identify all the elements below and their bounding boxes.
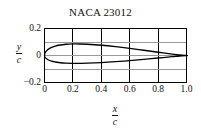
x-axis-fraction: x c xyxy=(112,104,118,127)
y-axis-denominator: c xyxy=(16,55,22,66)
y-tick-label: −0.2 xyxy=(15,78,41,88)
airfoil-chart-figure: NACA 23012 00.20.40.60.81.0 −0.200.2 y c… xyxy=(0,0,201,129)
gridlines xyxy=(45,29,187,83)
x-axis-numerator: x xyxy=(112,104,118,115)
y-axis-fraction: y c xyxy=(16,42,22,65)
x-tick-label: 0.6 xyxy=(117,85,143,95)
x-tick-label: 0.8 xyxy=(145,85,171,95)
x-axis-denominator: c xyxy=(112,117,118,128)
x-tick-label: 1.0 xyxy=(174,85,200,95)
y-axis-numerator: y xyxy=(16,42,22,53)
y-axis-title: y c xyxy=(8,42,30,65)
x-tick-label: 0.4 xyxy=(88,85,114,95)
plot-area xyxy=(0,0,201,129)
y-tick-label: 0.2 xyxy=(15,24,41,34)
airfoil-profile-curve xyxy=(44,44,187,63)
x-tick-label: 0.2 xyxy=(60,85,86,95)
x-axis-title: x c xyxy=(104,104,126,127)
